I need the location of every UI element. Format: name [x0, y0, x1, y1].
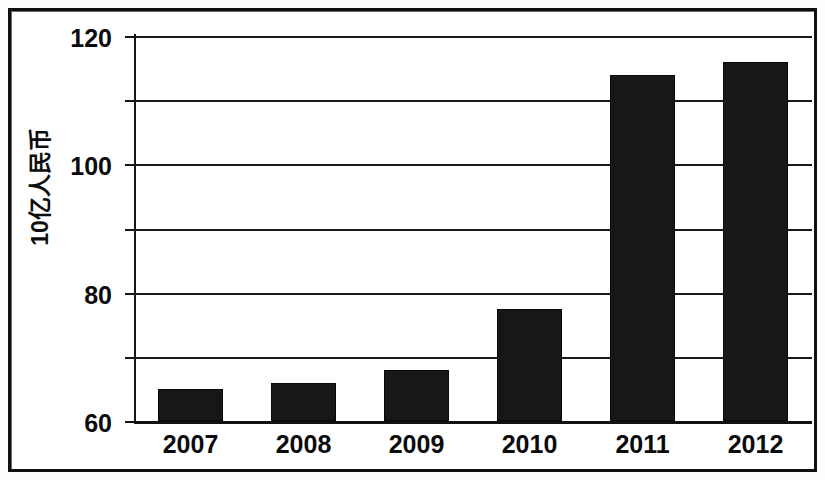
- y-axis-tick-label: 120: [70, 26, 112, 51]
- bar-2011: [610, 75, 676, 422]
- y-axis-tick-label: 100: [70, 154, 112, 179]
- bar-slot: [699, 36, 812, 421]
- bar-2012: [723, 62, 789, 421]
- x-axis-baseline: [134, 421, 812, 424]
- x-axis-tick-labels: 200720082009201020112012: [134, 430, 812, 459]
- bar-slot: [473, 36, 586, 421]
- bar-slot: [134, 36, 247, 421]
- y-axis-tick: 100: [125, 100, 134, 102]
- y-axis-tick-label: 60: [84, 411, 112, 436]
- plot-area: 020406080100120: [134, 36, 812, 421]
- x-axis-tick-label: 2011: [586, 430, 699, 459]
- bar-slot: [586, 36, 699, 421]
- y-axis-tick: 0: [125, 421, 134, 423]
- bar-2007: [158, 389, 224, 421]
- x-axis-tick-label: 2007: [134, 430, 247, 459]
- bar-slot: [247, 36, 360, 421]
- x-axis-tick-label: 2010: [473, 430, 586, 459]
- x-axis-tick-label: 2008: [247, 430, 360, 459]
- x-axis-tick-label: 2012: [699, 430, 812, 459]
- y-axis-tick: 20: [125, 357, 134, 359]
- bar-slot: [360, 36, 473, 421]
- y-axis-tick-label: 80: [84, 282, 112, 307]
- y-axis-title: 10亿人民币: [21, 87, 55, 287]
- bar-2009: [384, 370, 450, 421]
- y-axis-tick: 120: [125, 36, 134, 38]
- y-axis-tick: 40: [125, 293, 134, 295]
- y-axis-tick: 60: [125, 229, 134, 231]
- x-axis-tick-label: 2009: [360, 430, 473, 459]
- bar-2008: [271, 383, 337, 422]
- y-axis-tick: 80: [125, 164, 134, 166]
- bars-group: [134, 36, 812, 421]
- bar-2010: [497, 309, 563, 421]
- chart-figure: 10亿人民币 020406080100120 20072008200920102…: [0, 0, 825, 480]
